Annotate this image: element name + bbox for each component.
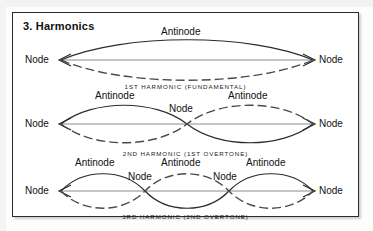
- harmonic-3-right-node-label: Node: [319, 186, 343, 196]
- harmonic-3-caption: 3RD HARMONIC (2ND OVERTONE): [13, 213, 358, 220]
- harmonic-3-antinode-left-label: Antinode: [75, 158, 114, 168]
- harmonic-3-middle-node-right-label: Node: [213, 172, 237, 182]
- harmonic-1-antinode-label: Antinode: [161, 27, 200, 37]
- harmonic-1-right-node-label: Node: [319, 55, 343, 65]
- harmonic-3-middle-node-left-label: Node: [128, 172, 152, 182]
- harmonic-1-left-node-label: Node: [25, 55, 49, 65]
- harmonic-3-left-node-label: Node: [25, 186, 49, 196]
- harmonic-2-diagram: Node Node Node Antinode Antinode: [13, 91, 358, 153]
- solid-wave-curve: [61, 40, 313, 60]
- figure-border-box: 3. Harmonics Node Node Antinode 1ST HARM…: [12, 12, 359, 217]
- harmonic-3-diagram: Node Node Node Node Antinode Antinode An…: [13, 158, 358, 220]
- harmonic-2-middle-node-label: Node: [169, 104, 193, 114]
- harmonics-figure: 3. Harmonics Node Node Antinode 1ST HARM…: [0, 0, 373, 231]
- dashed-wave-curve: [61, 60, 313, 80]
- harmonic-2-wave-graphic: [13, 91, 358, 153]
- harmonic-1-diagram: Node Node Antinode: [13, 27, 358, 89]
- scan-edge-top: [0, 0, 373, 7]
- harmonic-2-antinode-left-label: Antinode: [95, 91, 134, 101]
- scan-edge-left: [0, 0, 6, 231]
- harmonic-2-antinode-right-label: Antinode: [228, 91, 267, 101]
- harmonic-3-antinode-right-label: Antinode: [246, 158, 285, 168]
- harmonic-2-caption: 2ND HARMONIC (1ST OVERTONE): [13, 150, 358, 157]
- harmonic-1-caption: 1ST HARMONIC (FUNDAMENTAL): [13, 83, 358, 90]
- harmonic-3-antinode-center-label: Antinode: [161, 158, 200, 168]
- harmonic-2-right-node-label: Node: [319, 119, 343, 129]
- harmonic-2-left-node-label: Node: [25, 119, 49, 129]
